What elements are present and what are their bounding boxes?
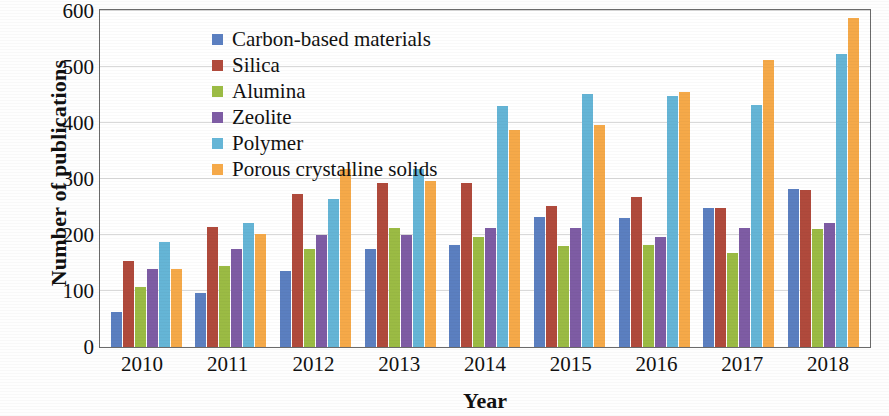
legend-swatch-icon: [212, 112, 223, 123]
bar-group: [534, 10, 605, 347]
bar: [171, 269, 182, 347]
legend-item: Alumina: [212, 78, 437, 104]
bar: [413, 169, 424, 347]
bar: [243, 223, 254, 347]
bar-group: [111, 10, 182, 347]
bar: [655, 237, 666, 347]
legend-swatch-icon: [212, 34, 223, 45]
bar: [679, 92, 690, 347]
legend-swatch-icon: [212, 60, 223, 71]
bar: [292, 194, 303, 347]
bar: [582, 94, 593, 347]
bar: [328, 199, 339, 347]
legend-item: Polymer: [212, 130, 437, 156]
x-axis-tick-label: 2012: [273, 352, 353, 377]
y-axis-tick-label: 0: [36, 334, 94, 359]
bar: [159, 242, 170, 347]
bar: [449, 245, 460, 347]
bar: [280, 271, 291, 347]
bar-group: [619, 10, 690, 347]
bar: [485, 228, 496, 347]
bar: [727, 253, 738, 347]
legend-item: Porous crystalline solids: [212, 156, 437, 182]
bar: [667, 96, 678, 347]
x-axis-tick-label: 2010: [102, 352, 182, 377]
bar: [147, 269, 158, 347]
bar: [619, 218, 630, 347]
bar: [425, 181, 436, 347]
bar: [534, 217, 545, 347]
bar: [546, 206, 557, 347]
x-axis-tick-label: 2015: [531, 352, 611, 377]
bar: [643, 245, 654, 347]
x-axis-tick-label: 2016: [616, 352, 696, 377]
y-axis-tick-label: 100: [36, 278, 94, 303]
bar: [703, 208, 714, 347]
y-axis-tick-label: 300: [36, 166, 94, 191]
x-axis-tick-labels: 201020112012201320142015201620172018: [99, 352, 871, 386]
bar: [558, 246, 569, 347]
bar: [763, 60, 774, 347]
bar: [751, 105, 762, 347]
bar: [111, 312, 122, 347]
x-axis-tick-label: 2018: [788, 352, 868, 377]
legend-label: Zeolite: [232, 107, 291, 128]
x-axis-tick-label: 2013: [359, 352, 439, 377]
x-axis-tick-label: 2014: [445, 352, 525, 377]
bar: [219, 266, 230, 347]
publications-bar-chart: Number of publications 01002003004005006…: [0, 0, 889, 416]
bar-group: [703, 10, 774, 347]
legend-swatch-icon: [212, 164, 223, 175]
x-axis-tick-label: 2011: [188, 352, 268, 377]
bar: [812, 229, 823, 347]
bar: [255, 234, 266, 347]
y-axis-tick-label: 600: [36, 0, 94, 23]
bar: [316, 235, 327, 347]
bar: [231, 249, 242, 347]
y-axis-tick-labels: 0100200300400500600: [36, 0, 94, 356]
bar: [739, 228, 750, 347]
y-axis-tick-label: 200: [36, 222, 94, 247]
legend-label: Polymer: [232, 133, 303, 154]
bar: [401, 235, 412, 347]
bar: [473, 237, 484, 347]
bar: [509, 130, 520, 347]
legend-label: Carbon-based materials: [232, 29, 431, 50]
bar: [631, 197, 642, 347]
bar: [788, 189, 799, 347]
chart-legend: Carbon-based materialsSilicaAluminaZeoli…: [212, 26, 437, 182]
bar: [135, 287, 146, 347]
bar: [848, 18, 859, 347]
bar: [836, 54, 847, 347]
bar: [715, 208, 726, 347]
legend-swatch-icon: [212, 138, 223, 149]
bar: [195, 293, 206, 347]
bar: [824, 223, 835, 347]
bar: [365, 249, 376, 347]
plot-area: Carbon-based materialsSilicaAluminaZeoli…: [99, 9, 871, 348]
legend-label: Alumina: [232, 81, 306, 102]
bar-group: [788, 10, 859, 347]
bar: [304, 249, 315, 347]
legend-label: Porous crystalline solids: [232, 159, 437, 180]
bar: [497, 106, 508, 347]
bar-group: [449, 10, 520, 347]
x-axis-title: Year: [99, 388, 871, 414]
legend-swatch-icon: [212, 86, 223, 97]
bar: [800, 190, 811, 347]
legend-item: Carbon-based materials: [212, 26, 437, 52]
legend-label: Silica: [232, 55, 280, 76]
bar: [377, 183, 388, 347]
legend-item: Silica: [212, 52, 437, 78]
legend-item: Zeolite: [212, 104, 437, 130]
y-axis-tick-label: 500: [36, 54, 94, 79]
y-axis-tick-label: 400: [36, 110, 94, 135]
bar: [123, 261, 134, 347]
bar: [207, 227, 218, 347]
x-axis-tick-label: 2017: [702, 352, 782, 377]
bar: [461, 183, 472, 347]
bar: [594, 125, 605, 347]
bar: [389, 228, 400, 347]
bar: [570, 228, 581, 347]
bar: [340, 169, 351, 347]
